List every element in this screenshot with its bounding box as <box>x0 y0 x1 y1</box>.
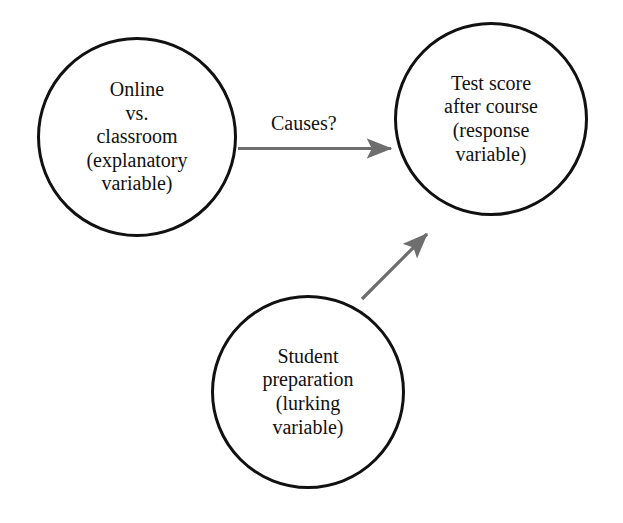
node-response-line-3: (response <box>453 119 530 143</box>
node-explanatory-line-2: vs. <box>126 102 149 126</box>
node-explanatory-line-5: variable) <box>101 172 172 196</box>
node-lurking-line-1: Student <box>277 345 338 369</box>
node-response-line-4: variable) <box>455 143 526 167</box>
node-explanatory-variable: Online vs. classroom (explanatory variab… <box>37 37 237 237</box>
causes-edge-label: Causes? <box>271 112 337 135</box>
node-response-line-2: after course <box>444 95 538 119</box>
node-response-line-1: Test score <box>451 72 531 96</box>
node-lurking-line-4: variable) <box>272 416 343 440</box>
node-lurking-line-3: (lurking <box>276 392 340 416</box>
node-response-variable: Test score after course (response variab… <box>394 22 588 216</box>
node-lurking-variable: Student preparation (lurking variable) <box>211 295 405 489</box>
node-lurking-line-2: preparation <box>262 368 353 392</box>
node-explanatory-line-3: classroom <box>96 125 177 149</box>
lurking-to-response-arrow <box>362 234 427 299</box>
node-explanatory-line-4: (explanatory <box>86 149 187 173</box>
causation-diagram: Online vs. classroom (explanatory variab… <box>0 0 623 523</box>
node-explanatory-line-1: Online <box>110 78 164 102</box>
